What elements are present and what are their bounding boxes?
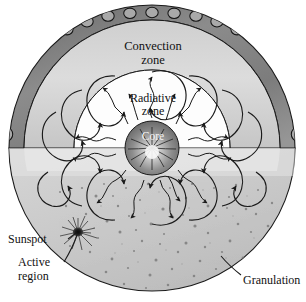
granulation-label: Granulation bbox=[243, 273, 300, 287]
radiative-zone-label-line1: Radiative bbox=[130, 91, 176, 105]
sunspot-core bbox=[73, 228, 83, 237]
core-hotspot bbox=[145, 145, 159, 159]
sunspot-label: Sunspot bbox=[8, 232, 47, 246]
active-region-label-line2: region bbox=[18, 269, 49, 283]
diagram-canvas: Convection zone Radiative zone Core Suns… bbox=[0, 0, 306, 302]
convection-zone-label-line1: Convection bbox=[124, 39, 182, 53]
convection-zone-label-line2: zone bbox=[141, 53, 165, 67]
radiative-zone-label-line2: zone bbox=[142, 104, 165, 118]
active-region-label-line1: Active bbox=[18, 255, 50, 269]
core-label: Core bbox=[142, 130, 164, 142]
sun-structure-diagram: Convection zone Radiative zone Core Suns… bbox=[0, 0, 306, 302]
